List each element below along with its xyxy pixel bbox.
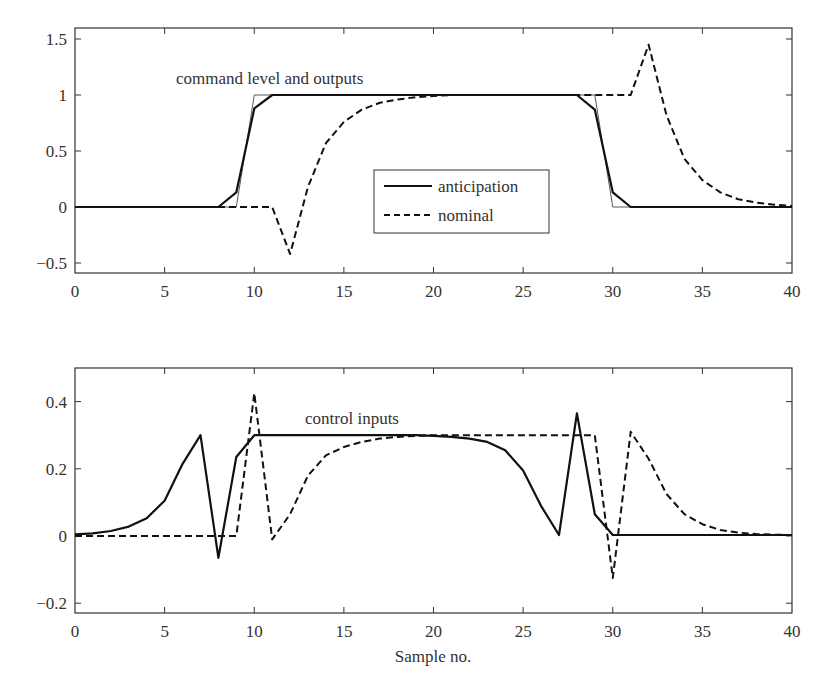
bottom-plot-annotation: control inputs [305,409,399,428]
y-tick-label: 1 [59,86,68,105]
x-tick-label: 30 [604,282,621,301]
top-plot: 05101520253035401.510.50−0.5 command lev… [36,28,800,301]
x-tick-label: 10 [246,622,263,641]
x-tick-label: 0 [71,282,80,301]
top-plot-frame [75,28,792,273]
legend: anticipation nominal [374,170,549,233]
x-tick-label: 20 [425,282,442,301]
y-tick-label: 0.5 [46,142,67,161]
top-plot-ticks: 05101520253035401.510.50−0.5 [36,28,800,301]
y-tick-label: 0 [59,198,68,217]
bottom-plot-frame [75,368,792,613]
x-tick-label: 10 [246,282,263,301]
y-tick-label: 0.2 [46,460,67,479]
legend-label-nominal: nominal [438,206,494,225]
y-tick-label: −0.2 [36,594,67,613]
x-tick-label: 40 [784,282,801,301]
legend-label-anticipation: anticipation [438,177,519,196]
x-tick-label: 25 [515,622,532,641]
top-plot-annotation: command level and outputs [176,69,363,88]
y-tick-label: 0 [59,527,68,546]
bottom-plot-ticks: 05101520253035400.40.20−0.2 [36,368,800,641]
bottom-plot: 05101520253035400.40.20−0.2 control inpu… [36,368,800,666]
x-tick-label: 0 [71,622,80,641]
x-tick-label: 5 [160,622,169,641]
y-tick-label: 1.5 [46,30,67,49]
x-tick-label: 15 [335,622,352,641]
x-tick-label: 5 [160,282,169,301]
y-tick-label: 0.4 [46,393,68,412]
x-tick-label: 35 [694,622,711,641]
x-tick-label: 25 [515,282,532,301]
series-nominal [75,393,792,578]
x-tick-label: 40 [784,622,801,641]
bottom-plot-lines [75,393,792,578]
figure: 05101520253035401.510.50−0.5 command lev… [0,0,831,700]
x-tick-label: 15 [335,282,352,301]
x-axis-label: Sample no. [395,647,472,666]
x-tick-label: 30 [604,622,621,641]
x-tick-label: 35 [694,282,711,301]
x-tick-label: 20 [425,622,442,641]
y-tick-label: −0.5 [36,254,67,273]
